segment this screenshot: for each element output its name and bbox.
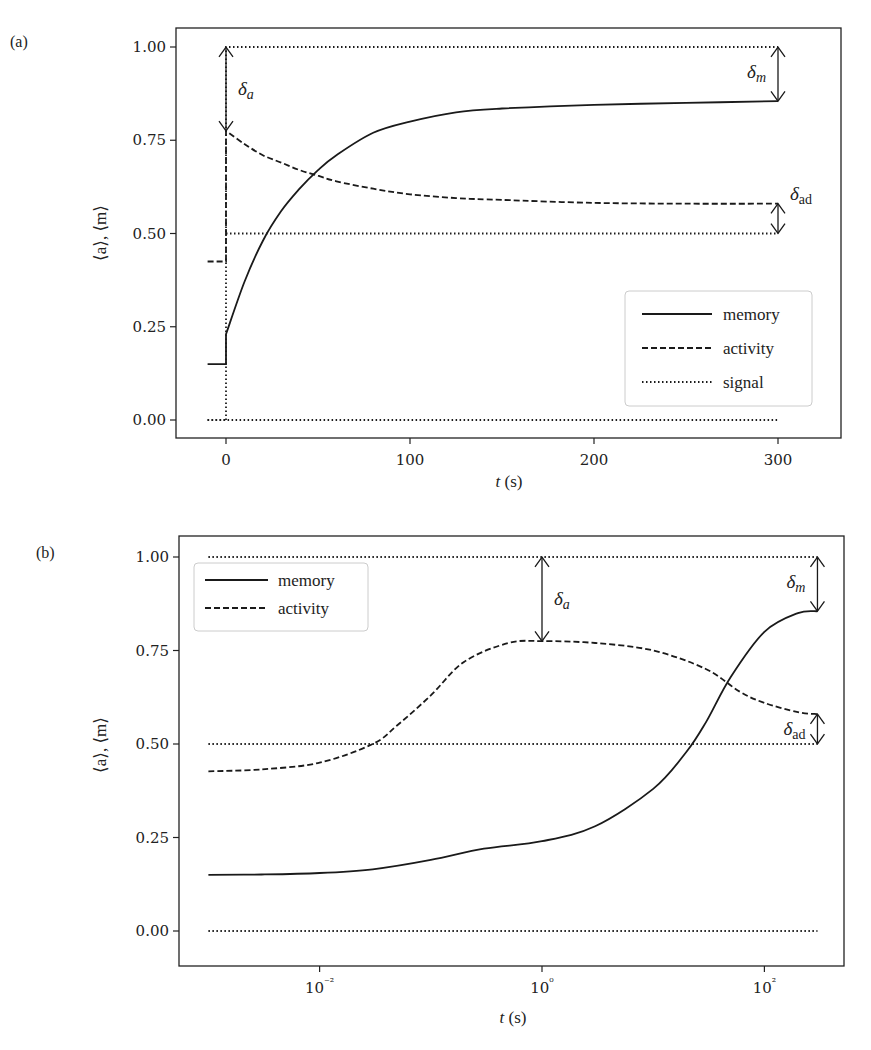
panel-a: (a) 0.000.250.500.751.00 0100200300 ⟨a⟩,… (10, 28, 841, 491)
panel-b-label: (b) (36, 544, 55, 562)
panel-a-x-axis-label: t (s) (496, 472, 523, 491)
annotation-label: δa (554, 588, 570, 612)
annotation-delta-m: δm (786, 557, 824, 611)
y-tick-label: 1.00 (136, 548, 169, 566)
panel-a-annotations: δaδmδad (219, 47, 812, 234)
y-tick-label: 0.00 (136, 922, 169, 940)
annotation-delta-ad: δad (783, 714, 824, 744)
annotation-label: δad (783, 718, 805, 742)
panel-b-x-axis: 10⁻²10⁰10² (305, 966, 776, 997)
legend-activity-label: activity (278, 599, 329, 618)
panel-a-y-axis-label: ⟨a⟩, ⟨m⟩ (91, 205, 110, 261)
panel-a-legend: memory activity signal (625, 291, 812, 406)
y-tick-label: 0.25 (133, 318, 166, 336)
x-tick-label: 10⁰ (530, 976, 554, 997)
y-tick-label: 0.75 (136, 642, 169, 660)
annotation-label: δad (790, 183, 812, 207)
legend-memory-label: memory (278, 571, 335, 590)
legend-memory-label: memory (723, 305, 780, 324)
x-tick-label: 100 (396, 451, 425, 469)
panel-a-label: (a) (10, 33, 28, 51)
legend-signal-label: signal (723, 373, 764, 392)
annotation-delta-ad: δad (771, 183, 812, 234)
y-tick-label: 0.75 (133, 131, 166, 149)
panel-b-y-axis: 0.000.250.500.751.00 (136, 548, 179, 940)
panel-b-x-axis-label: t (s) (500, 1008, 527, 1027)
x-tick-label: 10² (753, 976, 777, 997)
annotation-delta-m: δm (747, 47, 785, 101)
y-tick-label: 0.50 (133, 225, 166, 243)
x-tick-label: 200 (580, 451, 609, 469)
x-tick-label: 0 (221, 451, 231, 469)
annotation-label: δa (238, 78, 254, 102)
panel-b-y-axis-label: ⟨a⟩, ⟨m⟩ (91, 717, 110, 773)
series-memory (208, 611, 817, 875)
y-tick-label: 0.25 (136, 829, 169, 847)
series-activity (208, 641, 817, 772)
y-tick-label: 0.00 (133, 411, 166, 429)
panel-a-x-axis: 0100200300 (221, 438, 792, 469)
y-tick-label: 1.00 (133, 38, 166, 56)
annotation-label: δm (747, 61, 766, 85)
y-tick-label: 0.50 (136, 735, 169, 753)
panel-a-y-axis: 0.000.250.500.751.00 (133, 38, 176, 429)
x-tick-label: 10⁻² (305, 976, 334, 997)
annotation-delta-a: δa (535, 557, 570, 641)
panel-b-annotations: δaδmδad (535, 557, 824, 744)
annotation-label: δm (786, 571, 805, 595)
panel-b: (b) 0.000.250.500.751.00 10⁻²10⁰10² ⟨a⟩,… (36, 536, 844, 1027)
x-tick-label: 300 (764, 451, 793, 469)
figure: (a) 0.000.250.500.751.00 0100200300 ⟨a⟩,… (0, 0, 871, 1050)
legend-activity-label: activity (723, 339, 774, 358)
panel-b-legend: memory activity (194, 563, 368, 631)
annotation-delta-a: δa (219, 47, 254, 131)
